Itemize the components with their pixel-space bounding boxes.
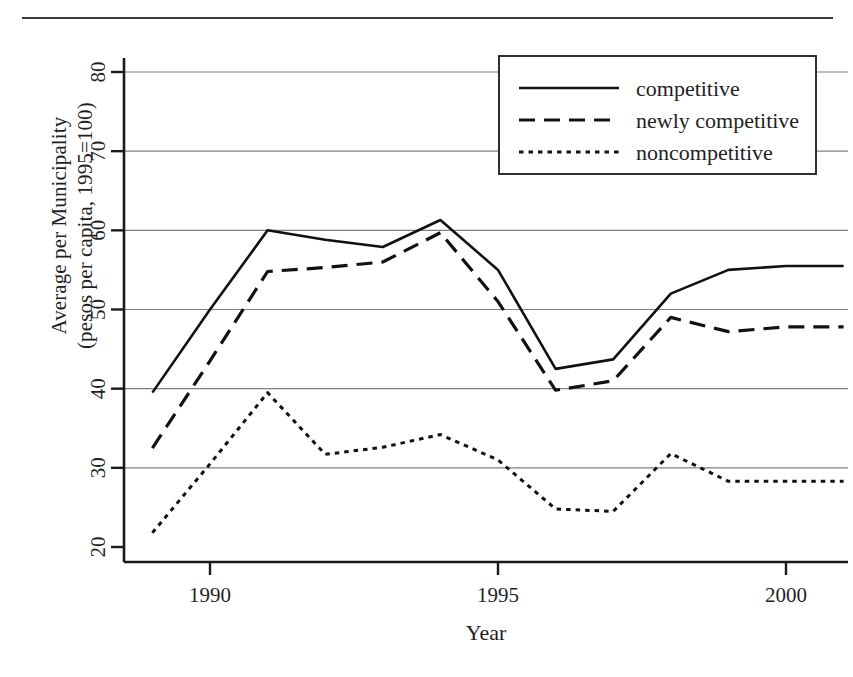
- top-horizontal-rule: [22, 17, 833, 19]
- legend-label-competitive: competitive: [636, 76, 740, 101]
- line-chart-plot: 20304050607080 199019952000 competitiven…: [0, 0, 853, 677]
- y-tick-label-60: 60: [86, 220, 110, 241]
- y-tick-label-40: 40: [86, 378, 110, 399]
- x-tick-label-1990: 1990: [189, 583, 231, 607]
- y-tick-label-20: 20: [86, 537, 110, 558]
- x-tick-label-2000: 2000: [765, 583, 807, 607]
- data-series-group: [152, 220, 843, 533]
- x-tick-label-1995: 1995: [477, 583, 519, 607]
- series-line-noncompetitive: [152, 393, 843, 533]
- legend-label-noncompetitive: noncompetitive: [636, 140, 773, 165]
- y-tick-label-70: 70: [86, 141, 110, 162]
- y-tick-label-30: 30: [86, 457, 110, 478]
- x-axis-ticks-group: 199019952000: [189, 562, 807, 607]
- figure-container: Average per Municipality (pesos per capi…: [0, 0, 853, 677]
- series-line-competitive: [152, 220, 843, 393]
- legend-label-newly-competitive: newly competitive: [636, 108, 799, 133]
- y-tick-label-80: 80: [86, 62, 110, 83]
- series-line-newly-competitive: [152, 233, 843, 448]
- y-axis-ticks-group: 20304050607080: [86, 62, 124, 558]
- x-axis-title: Year: [466, 620, 507, 645]
- chart-legend: competitivenewly competitivenoncompetiti…: [499, 56, 816, 174]
- y-tick-label-50: 50: [86, 299, 110, 320]
